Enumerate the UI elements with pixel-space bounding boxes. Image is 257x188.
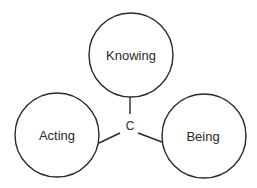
being-label: Being	[186, 129, 219, 144]
edge-center-being	[138, 133, 162, 142]
edge-center-acting	[99, 133, 120, 143]
node-acting: Acting	[15, 93, 99, 177]
node-being: Being	[162, 94, 246, 178]
acting-label: Acting	[39, 128, 75, 143]
knowing-label: Knowing	[106, 48, 156, 63]
triad-diagram: Knowing Acting Being C	[0, 0, 257, 188]
center-label: C	[126, 119, 135, 133]
node-knowing: Knowing	[89, 13, 173, 97]
